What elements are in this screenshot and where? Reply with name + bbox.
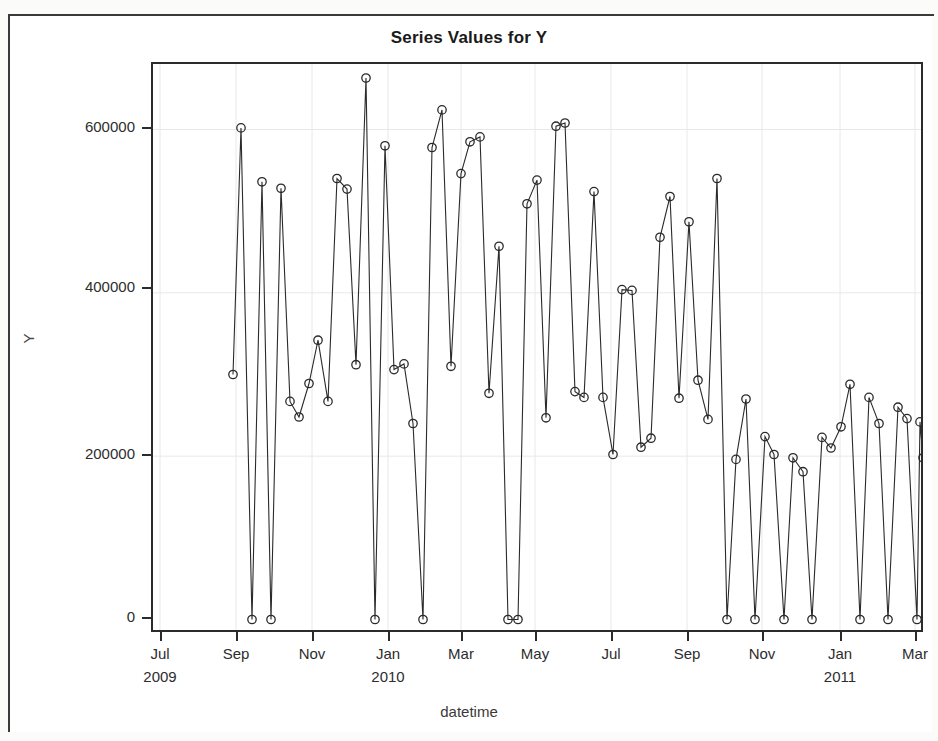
chart-title: Series Values for Y: [0, 28, 938, 48]
xtick-label-8: Nov: [727, 645, 797, 662]
xtick-mark-mar-4: [461, 632, 463, 641]
xtick-mark-sep-7: [687, 632, 689, 641]
xtick-year-9: 2011: [805, 668, 875, 685]
xtick-label-7: Sep: [652, 645, 722, 662]
xtick-mark-jan-3: [388, 632, 390, 641]
xtick-mark-mar-10: [915, 632, 917, 641]
xtick-label-10: Mar: [880, 645, 938, 662]
xtick-mark-may-5: [535, 632, 537, 641]
ytick-label-400000: 400000: [25, 278, 135, 295]
y-axis-label: Y: [20, 309, 37, 369]
xtick-label-3: Jan: [353, 645, 423, 662]
xtick-year-0: 2009: [125, 668, 195, 685]
xtick-mark-jul-0: [160, 632, 162, 641]
ytick-label-600000: 600000: [25, 118, 135, 135]
ytick-mark-0: [142, 617, 151, 619]
page-canvas: Series Values for Y 600000 400000 200000…: [0, 0, 938, 741]
xtick-label-2: Nov: [277, 645, 347, 662]
xtick-mark-nov-2: [312, 632, 314, 641]
xtick-mark-sep-1: [236, 632, 238, 641]
series-markers: [229, 74, 921, 624]
ytick-label-200000: 200000: [25, 445, 135, 462]
ytick-mark-400000: [142, 287, 151, 289]
xtick-year-3: 2010: [353, 668, 423, 685]
xtick-mark-jan-9: [840, 632, 842, 641]
series-plot-svg: [153, 64, 921, 630]
xtick-label-6: Jul: [576, 645, 646, 662]
gridlines: [153, 64, 921, 630]
ytick-label-0: 0: [25, 608, 135, 625]
series-line: [233, 78, 921, 620]
xtick-mark-jul-6: [611, 632, 613, 641]
xtick-label-9: Jan: [805, 645, 875, 662]
xtick-label-1: Sep: [201, 645, 271, 662]
plot-area: [151, 62, 923, 632]
ytick-mark-600000: [142, 127, 151, 129]
xtick-label-5: May: [500, 645, 570, 662]
xtick-mark-nov-8: [762, 632, 764, 641]
x-axis-label: datetime: [0, 703, 938, 720]
xtick-label-0: Jul: [125, 645, 195, 662]
xtick-label-4: Mar: [426, 645, 496, 662]
ytick-mark-200000: [142, 454, 151, 456]
